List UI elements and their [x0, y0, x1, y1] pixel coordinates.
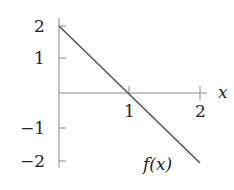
- x-axis-label: x: [218, 82, 228, 102]
- x-tick-label: 1: [124, 101, 135, 121]
- y-tick-label: −2: [20, 151, 45, 171]
- curve-label: f(x): [141, 154, 172, 174]
- y-tick-label: 2: [34, 16, 45, 36]
- chart: 2 1 −1 −2 1 2 x f(x): [0, 0, 234, 190]
- y-tick-label: −1: [20, 118, 45, 138]
- x-tick-label: 2: [195, 101, 206, 121]
- y-tick-label: 1: [34, 48, 45, 68]
- series-line-fx: [59, 26, 200, 163]
